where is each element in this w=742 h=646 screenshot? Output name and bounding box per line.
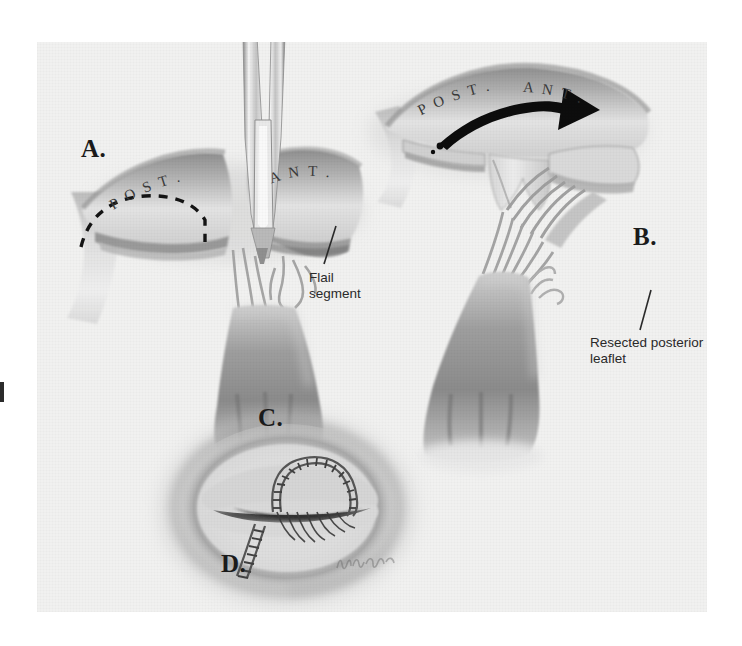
flail-segment-label: Flail segment [309, 270, 361, 301]
page-edge-mark [0, 382, 4, 402]
illustration-plate: P O S T . A N T . P O S T . A N T . A. B… [37, 42, 707, 612]
panel-label-c: C. [258, 405, 283, 430]
chordae-tendineae-a [233, 248, 316, 310]
panel-label-d: D. [221, 551, 246, 576]
panel-label-b: B. [633, 224, 657, 249]
panel-cd-artwork [159, 414, 415, 606]
panel-label-a: A. [81, 136, 106, 161]
illustration-figure: P O S T . A N T . P O S T . A N T . A. B… [0, 0, 742, 646]
resected-leaflet-label: Resected posterior leaflet [590, 335, 703, 366]
illustration-artwork [37, 42, 707, 612]
panel-a-artwork [67, 42, 363, 470]
